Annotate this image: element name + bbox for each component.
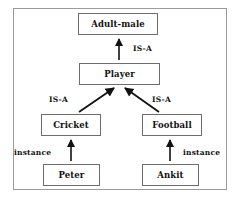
node-football: Football (142, 114, 202, 136)
node-player: Player (79, 63, 160, 85)
node-peter: Peter (43, 164, 100, 186)
node-adult-male: Adult-male (78, 13, 158, 35)
edge-label-isa-player-adult-male: IS-A (133, 44, 152, 53)
edge-label-instance-peter-cricket: instance (14, 148, 51, 157)
node-ankit: Ankit (142, 164, 199, 186)
edge-label-isa-football-player: IS-A (152, 95, 171, 104)
edge-label-isa-cricket-player: IS-A (49, 95, 68, 104)
diagram-canvas: Adult-male Player Cricket Football Peter… (0, 0, 242, 201)
edge-label-instance-ankit-football: instance (183, 148, 220, 157)
node-cricket: Cricket (41, 114, 101, 136)
diagram-frame (13, 8, 227, 190)
